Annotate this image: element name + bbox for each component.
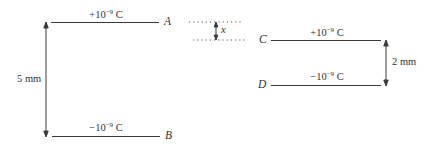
plate-a-label: A xyxy=(164,15,171,27)
separation-label-left: 5 mm xyxy=(17,73,41,84)
plate-b-charge: −10−9 C xyxy=(89,121,123,133)
plate-c xyxy=(271,40,381,41)
plate-c-charge: +10−9 C xyxy=(310,26,344,38)
plate-b-label: B xyxy=(165,129,172,141)
offset-label: x xyxy=(221,24,226,35)
offset-arrow xyxy=(214,22,218,40)
plate-d-charge: −10−9 C xyxy=(310,70,344,82)
separation-label-right: 2 mm xyxy=(392,56,416,67)
plate-d xyxy=(271,85,381,86)
plate-d-label: D xyxy=(258,78,266,90)
plate-b xyxy=(52,136,160,137)
plate-a-charge: +10−9 C xyxy=(89,8,123,20)
plate-a xyxy=(51,22,159,23)
plate-c-label: C xyxy=(259,33,267,45)
separation-arrow-right xyxy=(384,40,388,86)
separation-arrow-left xyxy=(44,22,48,137)
